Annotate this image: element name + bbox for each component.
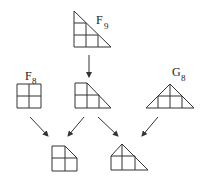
f8-label: F [25, 69, 32, 83]
diagram-canvas: F 9 F 8 G 8 [0, 0, 205, 182]
bottom-right-shape [111, 144, 148, 170]
bottom-left-shape [52, 146, 77, 171]
g8-triangle-shape [146, 84, 194, 108]
g8-label-sub: 8 [181, 73, 186, 83]
arrow-mid-to-bottom-right [98, 117, 118, 136]
f8-square-shape [17, 84, 41, 108]
f9-label-sub: 9 [104, 21, 109, 31]
arrow-g8-to-bottom-right [142, 117, 158, 136]
f9-label: F [96, 13, 103, 27]
mid-trapezoid-shape [75, 83, 111, 108]
arrow-f8-to-bottom-left [30, 117, 48, 136]
arrow-mid-to-bottom-left [68, 117, 84, 136]
g8-label: G [172, 65, 181, 79]
